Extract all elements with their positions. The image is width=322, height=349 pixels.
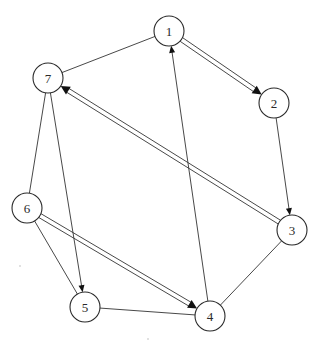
arrowhead-icon xyxy=(169,46,175,53)
node-label: 7 xyxy=(45,71,52,86)
edge-2-3 xyxy=(276,118,292,215)
edge-line xyxy=(41,214,192,303)
node-label: 1 xyxy=(166,24,173,39)
arrowhead-icon xyxy=(286,208,292,215)
node-label: 2 xyxy=(271,96,278,111)
edge-line xyxy=(29,93,45,193)
edge-line xyxy=(62,36,155,72)
edge-7-6 xyxy=(29,93,45,193)
edge-7-5 xyxy=(50,93,84,292)
node-1: 1 xyxy=(154,16,184,46)
edge-6-4 xyxy=(39,214,197,309)
edge-line xyxy=(100,308,195,315)
node-label: 4 xyxy=(207,309,214,324)
arrowhead-icon xyxy=(61,86,71,95)
node-6: 6 xyxy=(12,193,42,223)
edge-line xyxy=(68,88,280,220)
arrowhead-icon xyxy=(79,285,85,292)
graph-diagram: 1234567 xyxy=(0,0,322,349)
edge-line xyxy=(39,218,190,307)
edge-4-1 xyxy=(169,46,208,301)
edge-1-2 xyxy=(180,38,262,95)
edge-line xyxy=(276,118,289,210)
edge-line xyxy=(172,51,208,301)
node-4: 4 xyxy=(195,301,225,331)
edge-4-3 xyxy=(220,241,281,305)
node-label: 5 xyxy=(82,300,89,315)
node-label: 6 xyxy=(24,201,31,216)
node-3: 3 xyxy=(277,215,307,245)
edge-line xyxy=(220,241,281,305)
edge-5-4 xyxy=(100,308,195,315)
edge-line xyxy=(180,41,254,92)
edges-layer xyxy=(29,36,291,314)
node-7: 7 xyxy=(33,63,63,93)
node-5: 5 xyxy=(70,292,100,322)
scan-noise-dot xyxy=(147,338,149,340)
arrowhead-icon xyxy=(252,86,262,95)
edge-line xyxy=(183,38,257,89)
edge-3-7 xyxy=(61,86,281,224)
scan-noise-dot xyxy=(19,265,21,267)
edge-1-7 xyxy=(62,36,155,72)
edge-line xyxy=(50,93,81,287)
edge-line xyxy=(66,92,278,224)
node-label: 3 xyxy=(289,223,296,238)
node-2: 2 xyxy=(259,88,289,118)
